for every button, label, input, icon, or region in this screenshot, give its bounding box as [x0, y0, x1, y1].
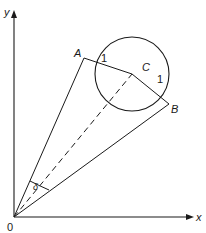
- point-C-label: C: [142, 61, 150, 73]
- tangent-line-OB: [14, 104, 169, 217]
- geometry-diagram: y x 0 A B C 1 1 δ: [0, 0, 206, 233]
- point-B-label: B: [171, 103, 178, 115]
- angle-delta-label: δ: [33, 182, 39, 192]
- radius-CB-label: 1: [157, 73, 163, 85]
- x-axis: [14, 214, 194, 220]
- y-axis-arrow-icon: [11, 10, 17, 18]
- x-axis-label: x: [195, 211, 202, 223]
- point-A-label: A: [73, 47, 81, 59]
- radius-CA-label: 1: [101, 52, 107, 64]
- origin-label: 0: [7, 221, 13, 233]
- radius-CA: [84, 58, 132, 74]
- radius-CB: [132, 74, 169, 104]
- y-axis: [11, 10, 17, 217]
- tangent-line-OA: [14, 58, 84, 217]
- dashed-line-OC: [14, 74, 132, 217]
- y-axis-label: y: [3, 6, 11, 18]
- x-axis-arrow-icon: [186, 214, 194, 220]
